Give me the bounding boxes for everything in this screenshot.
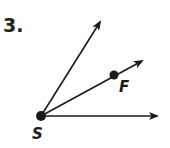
point-s-label: S (32, 125, 43, 143)
point-f-dot (110, 71, 119, 80)
upper-ray (41, 22, 100, 116)
point-f-label: F (119, 78, 129, 96)
point-s-dot (36, 111, 46, 121)
angle-diagram (0, 0, 170, 148)
